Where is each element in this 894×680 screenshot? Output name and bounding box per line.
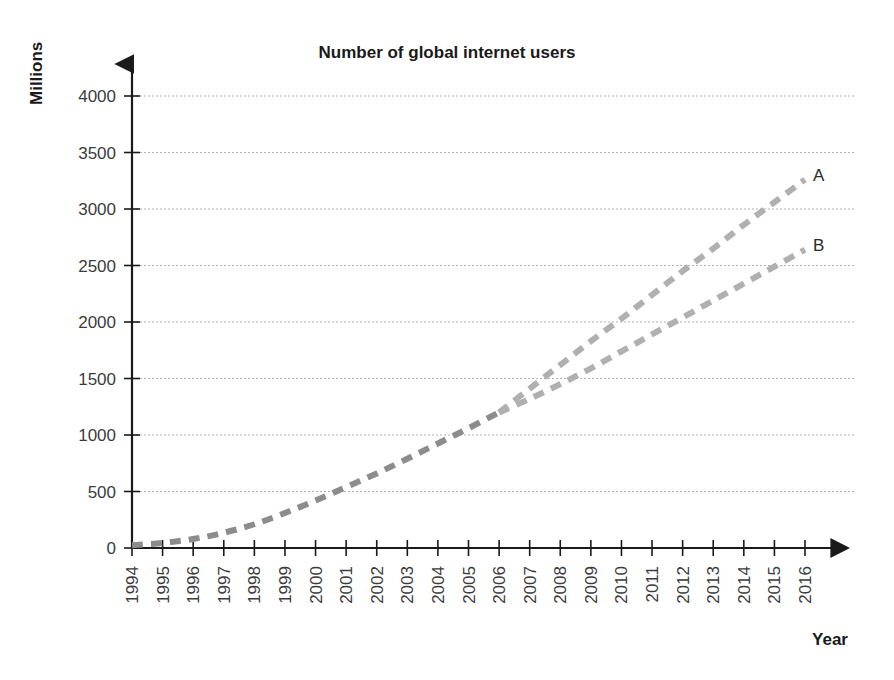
y-tick-label: 3500 — [78, 144, 116, 163]
x-tick-label: 2002 — [368, 566, 387, 604]
x-tick-label: 1997 — [215, 566, 234, 604]
x-tick-label: 2014 — [735, 566, 754, 604]
y-tick-label: 4000 — [78, 87, 116, 106]
data-series — [132, 180, 805, 546]
x-tick-label: 2007 — [521, 566, 540, 604]
x-tick-label: 2006 — [490, 566, 509, 604]
x-tick-label: 2010 — [612, 566, 631, 604]
x-tick-label: 2009 — [582, 566, 601, 604]
x-tick-label: 1994 — [123, 566, 142, 604]
x-tick-label: 2013 — [704, 566, 723, 604]
x-tick-label: 1998 — [245, 566, 264, 604]
gridlines — [132, 96, 855, 492]
series-end-label-b: B — [813, 236, 824, 255]
x-tick-label: 2008 — [551, 566, 570, 604]
x-axis-label: Year — [812, 630, 848, 649]
series-end-label-a: A — [813, 166, 825, 185]
x-tick-label: 2000 — [307, 566, 326, 604]
chart-figure: Number of global internet users Millions… — [0, 0, 894, 680]
x-tick-label: 2003 — [398, 566, 417, 604]
series-line-a — [499, 180, 805, 413]
series-line-actual — [132, 412, 499, 545]
x-tick-label: 2005 — [460, 566, 479, 604]
x-tick-label: 2015 — [765, 566, 784, 604]
y-tick-label: 3000 — [78, 200, 116, 219]
y-tick-label: 1500 — [78, 370, 116, 389]
y-tick-label: 0 — [107, 539, 116, 558]
x-axis-ticks: 1994199519961997199819992000200120022003… — [123, 540, 815, 604]
y-tick-label: 2500 — [78, 257, 116, 276]
y-tick-label: 2000 — [78, 313, 116, 332]
x-tick-label: 2004 — [429, 566, 448, 604]
series-annotations: AB — [813, 166, 825, 255]
chart-canvas: Number of global internet users Millions… — [0, 0, 894, 680]
x-tick-label: 1999 — [276, 566, 295, 604]
y-axis-label: Millions — [27, 42, 46, 105]
series-line-b — [499, 250, 805, 413]
chart-title: Number of global internet users — [319, 43, 576, 62]
x-tick-label: 1995 — [154, 566, 173, 604]
x-tick-label: 2001 — [337, 566, 356, 604]
x-tick-label: 2011 — [643, 566, 662, 603]
x-tick-label: 1996 — [184, 566, 203, 604]
x-tick-label: 2016 — [796, 566, 815, 604]
y-axis-ticks: 05001000150020002500300035004000 — [78, 87, 140, 558]
y-tick-label: 1000 — [78, 426, 116, 445]
y-tick-label: 500 — [88, 483, 116, 502]
x-tick-label: 2012 — [674, 566, 693, 604]
